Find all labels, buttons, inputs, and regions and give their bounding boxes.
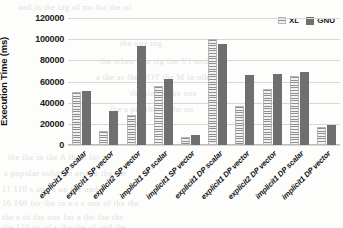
bar-gnu (300, 72, 309, 145)
gridline (68, 145, 340, 146)
y-axis-tick-label: 120000 (4, 13, 64, 23)
bar-xl (72, 92, 81, 145)
y-axis-tick-label: 0 (4, 140, 64, 150)
bar-xl (317, 127, 326, 145)
bar-group (150, 18, 177, 145)
bar-group (258, 18, 285, 145)
y-axis-tick-label: 20000 (4, 119, 64, 129)
bar-group (122, 18, 149, 145)
bar-xl (99, 131, 108, 145)
x-axis-labels: explicit1 SP scalarexplicit1 SP vectorex… (68, 147, 340, 227)
bar-gnu (164, 79, 173, 145)
bar-gnu (218, 44, 227, 145)
bar-xl (127, 115, 136, 145)
bar-xl (181, 137, 190, 145)
bar-group (313, 18, 340, 145)
x-axis-tick-label: explicit1 SP scalar (37, 149, 88, 200)
bar-gnu (191, 135, 200, 145)
y-axis-tick-label: 60000 (4, 77, 64, 87)
y-axis-tick-label: 100000 (4, 34, 64, 44)
bar-group (231, 18, 258, 145)
bar-group (68, 18, 95, 145)
bar-xl (290, 76, 299, 145)
bar-group (204, 18, 231, 145)
plot-area: 120000100000800006000040000200000 (68, 18, 340, 145)
bar-xl (208, 39, 217, 145)
bar-gnu (245, 75, 254, 145)
bar-groups (68, 18, 340, 145)
bar-gnu (109, 111, 118, 145)
x-axis-label-cell: implicit1 DP vector (313, 147, 340, 227)
bar-gnu (327, 125, 336, 145)
y-axis-tick-label: 80000 (4, 55, 64, 65)
bar-group (177, 18, 204, 145)
bar-xl (235, 106, 244, 145)
ghost-text-line: and in the tag of ms for the of (18, 2, 131, 12)
bar-gnu (273, 74, 282, 145)
bar-gnu (137, 46, 146, 145)
bar-xl (154, 86, 163, 145)
bar-xl (263, 89, 272, 145)
chart-container: and in the tag of ms for the of the one … (0, 0, 343, 228)
bar-group (286, 18, 313, 145)
y-axis-tick-label: 40000 (4, 98, 64, 108)
bar-gnu (82, 91, 91, 145)
bar-group (95, 18, 122, 145)
